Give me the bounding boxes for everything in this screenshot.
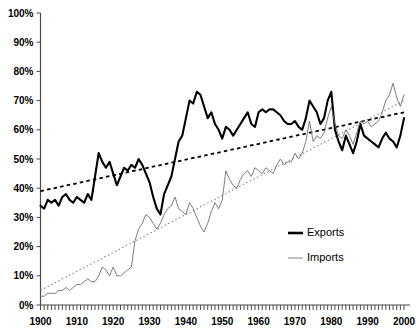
line-chart: 0%10%20%30%40%50%60%70%80%90%100% 190019… — [0, 0, 416, 336]
x-tick-label: 1900 — [29, 316, 52, 327]
x-tick-label: 1950 — [211, 316, 234, 327]
x-tick-label: 2000 — [393, 316, 416, 327]
y-tick-label: 0% — [19, 300, 34, 311]
x-tick-label: 1940 — [175, 316, 198, 327]
y-tick-label: 30% — [13, 212, 33, 223]
x-tick-label: 1970 — [284, 316, 307, 327]
x-tick-label: 1920 — [102, 316, 125, 327]
chart-legend: ExportsImports — [288, 226, 345, 263]
y-tick-label: 70% — [13, 95, 33, 106]
y-tick-label: 40% — [13, 183, 33, 194]
y-tick-label: 10% — [13, 270, 33, 281]
x-tick-label: 1910 — [66, 316, 89, 327]
x-tick-label: 1960 — [247, 316, 270, 327]
y-tick-label: 50% — [13, 154, 33, 165]
legend-label-imports: Imports — [307, 251, 344, 263]
y-tick-label: 60% — [13, 124, 33, 135]
x-tick-label: 1980 — [320, 316, 343, 327]
y-tick-label: 20% — [13, 241, 33, 252]
legend-label-exports: Exports — [307, 226, 345, 238]
y-tick-label: 80% — [13, 66, 33, 77]
y-tick-label: 90% — [13, 37, 33, 48]
trendlines — [41, 101, 405, 291]
y-tick-label: 100% — [8, 8, 34, 19]
x-tick-label: 1930 — [138, 316, 161, 327]
y-axis-tick-labels: 0%10%20%30%40%50%60%70%80%90%100% — [8, 8, 34, 311]
x-axis-minor-ticks — [41, 305, 405, 310]
x-tick-label: 1990 — [357, 316, 380, 327]
y-axis: 0%10%20%30%40%50%60%70%80%90%100% — [8, 8, 41, 311]
imports-trendline — [41, 101, 405, 291]
data-series — [41, 83, 405, 296]
x-axis-tick-labels: 1900191019201930194019501960197019801990… — [29, 316, 415, 327]
x-axis: 1900191019201930194019501960197019801990… — [29, 305, 415, 327]
imports-series-line — [41, 83, 405, 296]
chart-canvas: 0%10%20%30%40%50%60%70%80%90%100% 190019… — [0, 0, 416, 336]
